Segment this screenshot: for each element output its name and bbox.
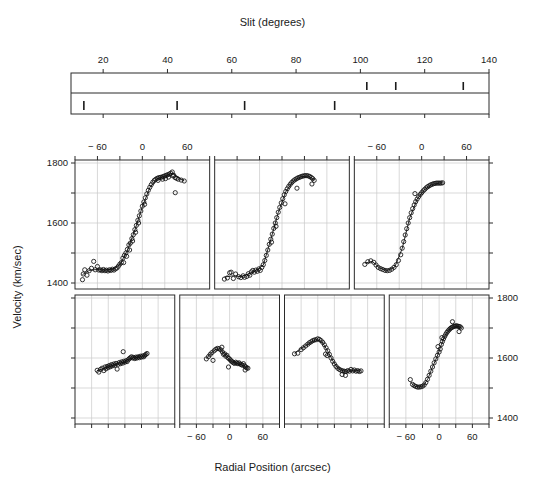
x-axis-tick-label: 60 bbox=[258, 431, 269, 442]
data-point bbox=[115, 367, 119, 371]
x-axis-tick-label: − 60 bbox=[396, 431, 415, 442]
data-point bbox=[85, 273, 89, 277]
rotation-curve-figure: Slit (degrees) Radial Position (arcsec) … bbox=[0, 0, 545, 496]
data-point bbox=[231, 276, 235, 280]
data-point bbox=[450, 320, 454, 324]
slit-axis-tick-label: 60 bbox=[226, 54, 237, 65]
plot-canvas bbox=[0, 0, 545, 496]
x-axis-tick-label: − 60 bbox=[88, 141, 107, 152]
x-axis-tick-label: 60 bbox=[182, 141, 193, 152]
slit-axis-tick-label: 120 bbox=[417, 54, 433, 65]
data-point bbox=[413, 192, 417, 196]
y-axis-tick-label: 1600 bbox=[47, 217, 68, 228]
x-axis-tick-label: 60 bbox=[467, 431, 478, 442]
data-point bbox=[295, 186, 299, 190]
data-point bbox=[83, 268, 87, 272]
slit-axis-tick-label: 100 bbox=[352, 54, 368, 65]
slit-axis-tick-label: 80 bbox=[291, 54, 302, 65]
slit-axis-tick-label: 40 bbox=[162, 54, 173, 65]
y-axis-tick-label: 1400 bbox=[497, 412, 518, 423]
data-point bbox=[457, 330, 461, 334]
fit-curve bbox=[224, 176, 314, 277]
data-point bbox=[92, 259, 96, 263]
data-point bbox=[80, 278, 84, 282]
x-axis-tick-label: 0 bbox=[227, 431, 232, 442]
x-axis-tick-label: − 60 bbox=[187, 431, 206, 442]
y-axis-tick-label: 1400 bbox=[47, 277, 68, 288]
slit-axis-tick-label: 140 bbox=[481, 54, 497, 65]
y-axis-tick-label: 1800 bbox=[497, 292, 518, 303]
data-point bbox=[310, 182, 314, 186]
x-axis-tick-label: 0 bbox=[436, 431, 441, 442]
slit-axis-tick-label: 20 bbox=[98, 54, 109, 65]
y-axis-tick-label: 1800 bbox=[47, 157, 68, 168]
x-axis-tick-label: 60 bbox=[461, 141, 472, 152]
data-point bbox=[226, 365, 230, 369]
y-axis-tick-label: 1600 bbox=[497, 352, 518, 363]
data-point bbox=[408, 378, 412, 382]
x-axis-tick-label: − 60 bbox=[367, 141, 386, 152]
x-axis-tick-label: 0 bbox=[419, 141, 424, 152]
x-axis-tick-label: 0 bbox=[140, 141, 145, 152]
